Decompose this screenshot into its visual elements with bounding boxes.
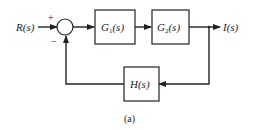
g1-label: G1(s) — [101, 21, 124, 35]
h-label: H(s) — [129, 78, 150, 91]
g2-block: G2(s) — [152, 10, 189, 44]
block-diagram: R(s) + − G1(s) G2(s) I(s) H(s) — [0, 0, 263, 130]
g2-label: G2(s) — [157, 21, 180, 35]
plus-sign: + — [48, 12, 54, 23]
input-label: R(s) — [15, 21, 35, 34]
h-block: H(s) — [124, 67, 159, 101]
g1-block: G1(s) — [95, 10, 135, 44]
figure-caption: (a) — [124, 113, 135, 125]
minus-sign: − — [51, 36, 57, 47]
summing-junction — [57, 19, 73, 35]
output-label: I(s) — [222, 21, 239, 34]
